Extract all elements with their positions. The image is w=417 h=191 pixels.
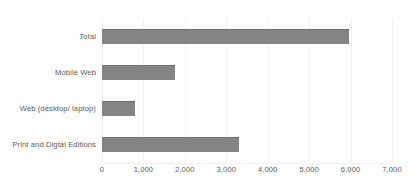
x-tick-label: 1,000: [134, 165, 154, 174]
category-axis: Total Mobile Web Web (desktop/ laptop) P…: [0, 18, 96, 163]
x-tick-label: 0: [100, 165, 104, 174]
category-label: Total: [79, 18, 96, 54]
x-tick-label: 4,000: [258, 165, 278, 174]
category-label: Web (desktop/ laptop): [20, 91, 96, 127]
bar-row: [102, 54, 392, 90]
x-tick-label: 5,000: [299, 165, 319, 174]
x-axis-line: [102, 163, 392, 164]
bars: [102, 18, 392, 163]
x-tick-label: 2,000: [175, 165, 195, 174]
bar-row: [102, 91, 392, 127]
category-label: Print and Digtal Editions: [12, 127, 96, 163]
x-tick-label: 3,000: [217, 165, 237, 174]
x-tick-label: 6,000: [341, 165, 361, 174]
x-tick-label: 7,000: [382, 165, 402, 174]
plot-area: [102, 18, 392, 163]
bar-web-desktop-laptop: [102, 101, 135, 116]
value-axis: 0 1,000 2,000 3,000 4,000 5,000 6,000 7,…: [102, 165, 392, 179]
bar-total: [102, 29, 349, 44]
category-label: Mobile Web: [55, 54, 96, 90]
bar-mobile-web: [102, 65, 175, 80]
bar-print-and-digital-editions: [102, 137, 239, 152]
bar-row: [102, 18, 392, 54]
bar-chart: Total Mobile Web Web (desktop/ laptop) P…: [0, 0, 417, 191]
bar-row: [102, 127, 392, 163]
gridline: [392, 18, 393, 163]
